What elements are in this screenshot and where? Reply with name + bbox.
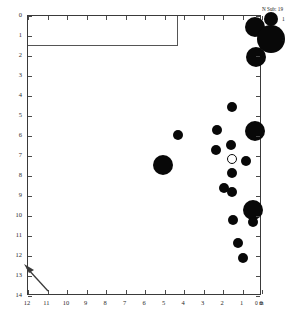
x-axis-tick (223, 290, 224, 294)
y-axis-tick (28, 16, 32, 17)
y-axis-tick (28, 256, 32, 257)
x-axis-tick-label: 2 (214, 299, 230, 306)
y-axis-tick (28, 216, 32, 217)
y-axis-tick-label: 5 (8, 111, 22, 118)
y-axis-tick (28, 96, 32, 97)
x-axis-tick-label: 11 (39, 299, 55, 306)
y-axis-tick-label: 0 (8, 11, 22, 18)
x-axis-tick (67, 16, 68, 20)
y-axis-tick (256, 56, 260, 57)
data-bubble (245, 121, 265, 141)
y-axis-tick (256, 136, 260, 137)
plot-area (27, 15, 261, 295)
y-axis-tick-label: 10 (8, 211, 22, 218)
x-axis-tick (262, 290, 263, 294)
x-axis-tick-label: 1 (234, 299, 250, 306)
y-axis-tick (256, 116, 260, 117)
x-axis-tick-label: 4 (175, 299, 191, 306)
legend-bubble (264, 12, 278, 26)
x-axis-tick (145, 290, 146, 294)
x-axis-tick (165, 16, 166, 20)
x-axis-tick-label: 9 (78, 299, 94, 306)
data-bubble (227, 187, 237, 197)
data-bubble (173, 130, 183, 140)
y-axis-tick (28, 156, 32, 157)
bubble-scatter-figure: 1211109876543210 01234567891011121314 0 … (0, 0, 287, 321)
x-axis-tick (262, 16, 263, 20)
x-axis-tick (126, 16, 127, 20)
data-bubble (241, 156, 251, 166)
y-axis-tick (256, 276, 260, 277)
y-axis-tick (28, 176, 32, 177)
x-axis-tick (145, 16, 146, 20)
y-axis-tick (256, 176, 260, 177)
y-axis-tick-label: 12 (8, 251, 22, 258)
y-axis-tick-label: 4 (8, 91, 22, 98)
data-bubble (227, 168, 237, 178)
y-axis-tick (256, 236, 260, 237)
y-axis-tick (256, 256, 260, 257)
data-bubble (233, 238, 243, 248)
arrow-annotation (18, 258, 68, 300)
x-axis-tick-label: 8 (97, 299, 113, 306)
y-axis-tick (28, 116, 32, 117)
x-axis-tick (223, 16, 224, 20)
y-axis-tick (256, 296, 260, 297)
y-axis-tick (256, 196, 260, 197)
x-axis-tick (106, 290, 107, 294)
x-axis-tick (184, 290, 185, 294)
x-axis-tick (87, 290, 88, 294)
y-axis-tick-label: 7 (8, 151, 22, 158)
y-axis-tick (28, 236, 32, 237)
y-axis-tick-label: 11 (8, 231, 22, 238)
data-bubble (153, 155, 173, 175)
y-axis-tick (256, 76, 260, 77)
x-axis-tick-label: 3 (195, 299, 211, 306)
x-axis-tick (48, 16, 49, 20)
data-bubble (227, 154, 237, 164)
y-axis-tick (28, 36, 32, 37)
inset-box (28, 16, 178, 46)
x-axis-tick (87, 16, 88, 20)
y-axis-tick-label: 6 (8, 131, 22, 138)
data-bubble (248, 217, 258, 227)
x-axis-tick (106, 16, 107, 20)
y-axis-tick (28, 136, 32, 137)
legend-label: 2 (282, 36, 285, 42)
data-bubble (227, 102, 237, 112)
data-bubble (228, 215, 238, 225)
x-axis-tick-label: 12 (19, 299, 35, 306)
x-axis-tick (126, 290, 127, 294)
x-axis-unit-label: 0 m (255, 300, 263, 306)
x-axis-tick (243, 16, 244, 20)
legend-title: N Sub: 19 (262, 6, 283, 12)
x-axis-tick-label: 6 (136, 299, 152, 306)
y-axis-tick (28, 56, 32, 57)
x-axis-tick (165, 290, 166, 294)
y-axis-tick-label: 1 (8, 31, 22, 38)
y-axis-tick (256, 216, 260, 217)
y-axis-tick (28, 76, 32, 77)
x-axis-tick (243, 290, 244, 294)
x-axis-tick-label: 5 (156, 299, 172, 306)
data-bubble (238, 253, 248, 263)
x-axis-tick (184, 16, 185, 20)
y-axis-tick (256, 156, 260, 157)
y-axis-tick-label: 9 (8, 191, 22, 198)
y-axis-tick (256, 16, 260, 17)
data-bubble (226, 140, 236, 150)
data-bubble (211, 145, 221, 155)
data-bubble (212, 125, 222, 135)
y-axis-tick-label: 2 (8, 51, 22, 58)
y-axis-tick-label: 3 (8, 71, 22, 78)
y-axis-tick (28, 196, 32, 197)
y-axis-tick-label: 8 (8, 171, 22, 178)
x-axis-tick-label: 7 (117, 299, 133, 306)
x-axis-tick (204, 290, 205, 294)
x-axis-tick (204, 16, 205, 20)
legend-label: 1 (282, 16, 285, 22)
legend-bubble (257, 25, 285, 53)
y-axis-tick (256, 96, 260, 97)
x-axis-tick-label: 10 (58, 299, 74, 306)
